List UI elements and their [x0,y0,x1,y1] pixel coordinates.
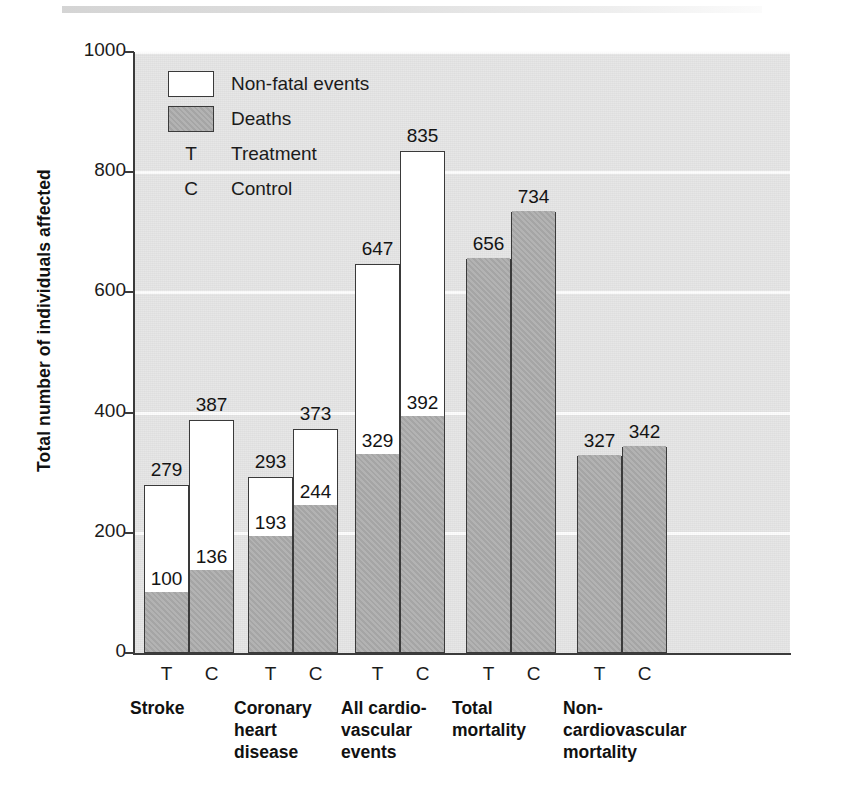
x-tick-label-c: C [514,663,554,685]
bar-segment-deaths [401,416,444,652]
x-tick-label-t: T [251,663,291,685]
bar-deaths-value-label: 392 [401,392,445,414]
bar-non-cardiovascular-mortality-t[interactable] [577,456,622,653]
bar-total-value-label: 373 [294,403,338,425]
bar-total-value-label: 387 [190,394,234,416]
bar-total-mortality-c[interactable] [511,212,556,653]
category-label-line: Coronary [234,697,312,719]
category-label-coronary-heart-disease: Coronaryheartdisease [234,697,312,763]
legend-label: Non-fatal events [231,73,369,95]
legend-swatch-gray [168,106,214,132]
category-label-line: vascular [341,719,427,741]
legend-label: Control [231,178,292,200]
bar-stroke-c[interactable] [189,420,234,653]
gridline-1000 [133,51,790,54]
bar-segment-deaths [578,455,621,652]
category-label-line: Total [452,697,526,719]
bar-total-value-label: 279 [145,459,189,481]
y-tick-label-600: 600 [64,279,126,301]
category-label-line: events [341,741,427,763]
x-tick-label-t: T [580,663,620,685]
bar-deaths-value-label: 329 [356,430,400,452]
bar-segment-deaths [467,258,510,652]
bar-total-value-label: 647 [356,238,400,260]
category-label-line: mortality [452,719,526,741]
legend-label: Deaths [231,108,291,130]
gridline-600 [133,291,790,294]
legend-item-non-fatal-events[interactable]: Non-fatal events [168,68,428,99]
y-tick-mark-400 [125,412,134,414]
bar-non-cardiovascular-mortality-c[interactable] [622,447,667,653]
bar-segment-nonfatal [356,265,399,456]
bar-deaths-value-label: 136 [190,546,234,568]
x-tick-label-t: T [469,663,509,685]
x-tick-label-t: T [147,663,187,685]
bar-deaths-value-label: 244 [294,481,338,503]
legend-key-t: T [168,143,214,165]
legend-key-c: C [168,178,214,200]
y-tick-label-400: 400 [64,400,126,422]
x-tick-label-c: C [625,663,665,685]
chart-legend: Non-fatal eventsDeathsTTreatmentCControl [168,68,428,208]
y-axis-tick-labels: 02004006008001000 [54,0,126,794]
y-tick-label-800: 800 [64,159,126,181]
stacked-bar-chart-figure: Total number of individuals affected 020… [0,0,849,794]
bar-total-value-label: 734 [512,186,556,208]
category-label-line: cardiovascular [563,719,687,741]
bar-segment-deaths [512,211,555,652]
legend-label: Treatment [231,143,317,165]
bar-segment-deaths [294,505,337,652]
category-label-line: All cardio- [341,697,427,719]
bar-segment-deaths [145,592,188,652]
y-tick-mark-1000 [125,51,134,53]
y-tick-label-200: 200 [64,520,126,542]
category-label-total-mortality: Totalmortality [452,697,526,741]
y-tick-mark-600 [125,291,134,293]
y-tick-mark-200 [125,532,134,534]
y-tick-label-0: 0 [64,640,126,662]
category-label-non-cardiovascular-mortality: Non-cardiovascularmortality [563,697,687,763]
bar-segment-deaths [249,536,292,652]
y-axis-title: Total number of individuals affected [34,91,55,551]
bar-deaths-value-label: 100 [145,568,189,590]
legend-swatch-white [168,71,214,97]
bar-coronary-heart-disease-c[interactable] [293,429,338,653]
bar-coronary-heart-disease-t[interactable] [248,477,293,653]
y-tick-label-1000: 1000 [64,39,126,61]
y-axis-line [133,52,135,655]
category-label-line: mortality [563,741,687,763]
x-tick-label-t: T [358,663,398,685]
bar-total-value-label: 656 [467,233,511,255]
bar-segment-deaths [623,446,666,652]
bar-total-mortality-t[interactable] [466,259,511,653]
category-label-all-cardiovascular-events: All cardio-vascularevents [341,697,427,763]
x-tick-label-c: C [192,663,232,685]
legend-item-deaths[interactable]: Deaths [168,103,428,134]
bar-segment-deaths [356,454,399,652]
y-tick-mark-800 [125,171,134,173]
bar-deaths-value-label: 193 [249,512,293,534]
legend-item-control[interactable]: CControl [168,173,428,204]
y-tick-mark-0 [125,652,134,654]
bar-total-value-label: 342 [623,421,667,443]
category-label-line: Stroke [130,697,184,719]
category-label-line: Non- [563,697,687,719]
bar-segment-deaths [190,570,233,652]
x-tick-label-c: C [296,663,336,685]
x-axis-line [133,653,791,655]
bar-total-value-label: 293 [249,451,293,473]
category-label-stroke: Stroke [130,697,184,719]
category-label-line: heart [234,719,312,741]
x-tick-label-c: C [403,663,443,685]
legend-item-treatment[interactable]: TTreatment [168,138,428,169]
bar-all-cardiovascular-events-t[interactable] [355,264,400,653]
category-label-line: disease [234,741,312,763]
bar-total-value-label: 327 [578,430,622,452]
